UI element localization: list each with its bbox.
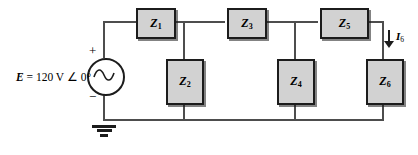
impedance-z4-label: Z4 (290, 75, 301, 89)
sine-wave-icon (89, 60, 119, 90)
wire-node-a-to-z2 (183, 21, 185, 59)
wire-z1-to-node-a (172, 21, 225, 23)
impedance-z1: Z1 (136, 8, 176, 39)
impedance-z5-label: Z5 (339, 17, 350, 31)
impedance-z6-label: Z6 (379, 75, 390, 89)
ground-bar-1 (92, 125, 116, 128)
source-label: E = 120 V ∠ 0° (16, 70, 91, 84)
wire-source-to-top-left (103, 21, 105, 58)
impedance-z3-label: Z3 (241, 17, 252, 31)
source-label-value: 120 V (36, 71, 64, 83)
circuit-diagram: + − E = 120 V ∠ 0° Z1 Z2 Z3 Z4 Z5 (0, 0, 418, 155)
wire-z3-to-node-b (263, 21, 318, 23)
wire-top-left-to-z1 (103, 21, 136, 23)
impedance-z4: Z4 (277, 59, 315, 105)
source-label-equals: = (27, 71, 34, 83)
impedance-z2: Z2 (166, 59, 204, 105)
current-arrow-head (384, 41, 394, 48)
wire-bottom-rail (103, 119, 384, 121)
wire-node-b-to-z4 (294, 21, 296, 59)
source-minus-sign: − (89, 90, 96, 103)
impedance-z5: Z5 (320, 8, 369, 39)
impedance-z6: Z6 (366, 59, 404, 105)
impedance-z3: Z3 (227, 8, 267, 39)
ground-bar-2 (97, 129, 112, 132)
source-label-angle: ∠ 0° (67, 71, 91, 83)
impedance-z2-label: Z2 (179, 75, 190, 89)
wire-right-corner-to-z6 (382, 21, 384, 59)
current-label-i6: I6 (396, 30, 404, 44)
current-label-subscript: 6 (400, 35, 404, 44)
source-label-e: E (16, 71, 24, 83)
impedance-z1-label: Z1 (150, 17, 161, 31)
ground-symbol (92, 123, 116, 137)
ground-bar-3 (100, 134, 108, 137)
source-plus-sign: + (89, 44, 96, 57)
wire-source-to-bottom-rail (103, 92, 105, 121)
